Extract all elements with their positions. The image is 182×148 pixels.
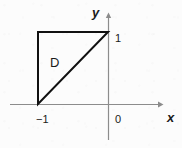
y-axis-arrowhead [106, 13, 111, 19]
tick-label-x-negative-one: −1 [36, 114, 49, 125]
tick-label-origin: 0 [115, 114, 121, 125]
tick-label-y-one: 1 [115, 33, 121, 44]
y-axis-label: y [92, 6, 99, 19]
coordinate-plot [0, 0, 182, 148]
x-axis-label: x [167, 111, 174, 124]
region-d-label: D [50, 56, 59, 69]
region-d-triangle [38, 32, 108, 104]
math-figure: y x 1 −1 0 D [0, 0, 182, 148]
x-axis-arrowhead [158, 102, 164, 108]
